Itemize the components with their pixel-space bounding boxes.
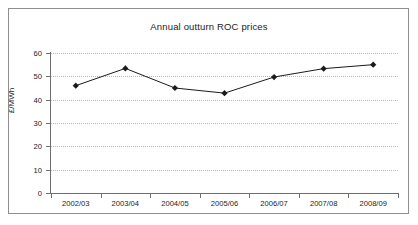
y-axis-tick-label: 50 [14,72,42,81]
x-axis-tick [299,193,300,198]
y-axis-tick [46,53,51,54]
x-axis-tick [348,193,349,198]
plot-area [51,53,398,193]
x-axis-tick [249,193,250,198]
y-axis-tick [46,76,51,77]
chart-title: Annual outturn ROC prices [0,21,418,32]
gridline-y [51,146,398,147]
y-axis-tick-label: 30 [14,119,42,128]
y-axis-tick [46,123,51,124]
x-axis-tick-label: 2008/09 [343,199,403,208]
y-axis-tick-label: 0 [14,189,42,198]
y-axis-tick [46,100,51,101]
gridline-y [51,76,398,77]
gridline-y [51,123,398,124]
gridline-y [51,53,398,54]
y-axis-tick-label: 60 [14,49,42,58]
x-axis-tick [150,193,151,198]
x-axis-line [50,193,398,194]
x-axis-tick [101,193,102,198]
y-axis-tick [46,146,51,147]
y-axis-tick-label: 10 [14,165,42,174]
y-axis-tick-label: 40 [14,95,42,104]
gridline-y [51,100,398,101]
x-axis-tick [398,193,399,198]
gridline-y [51,170,398,171]
y-axis-tick-label: 20 [14,142,42,151]
chart-figure: Annual outturn ROC prices £/MWh 01020304… [0,0,418,225]
x-axis-tick [51,193,52,198]
x-axis-tick [200,193,201,198]
y-axis-tick [46,170,51,171]
